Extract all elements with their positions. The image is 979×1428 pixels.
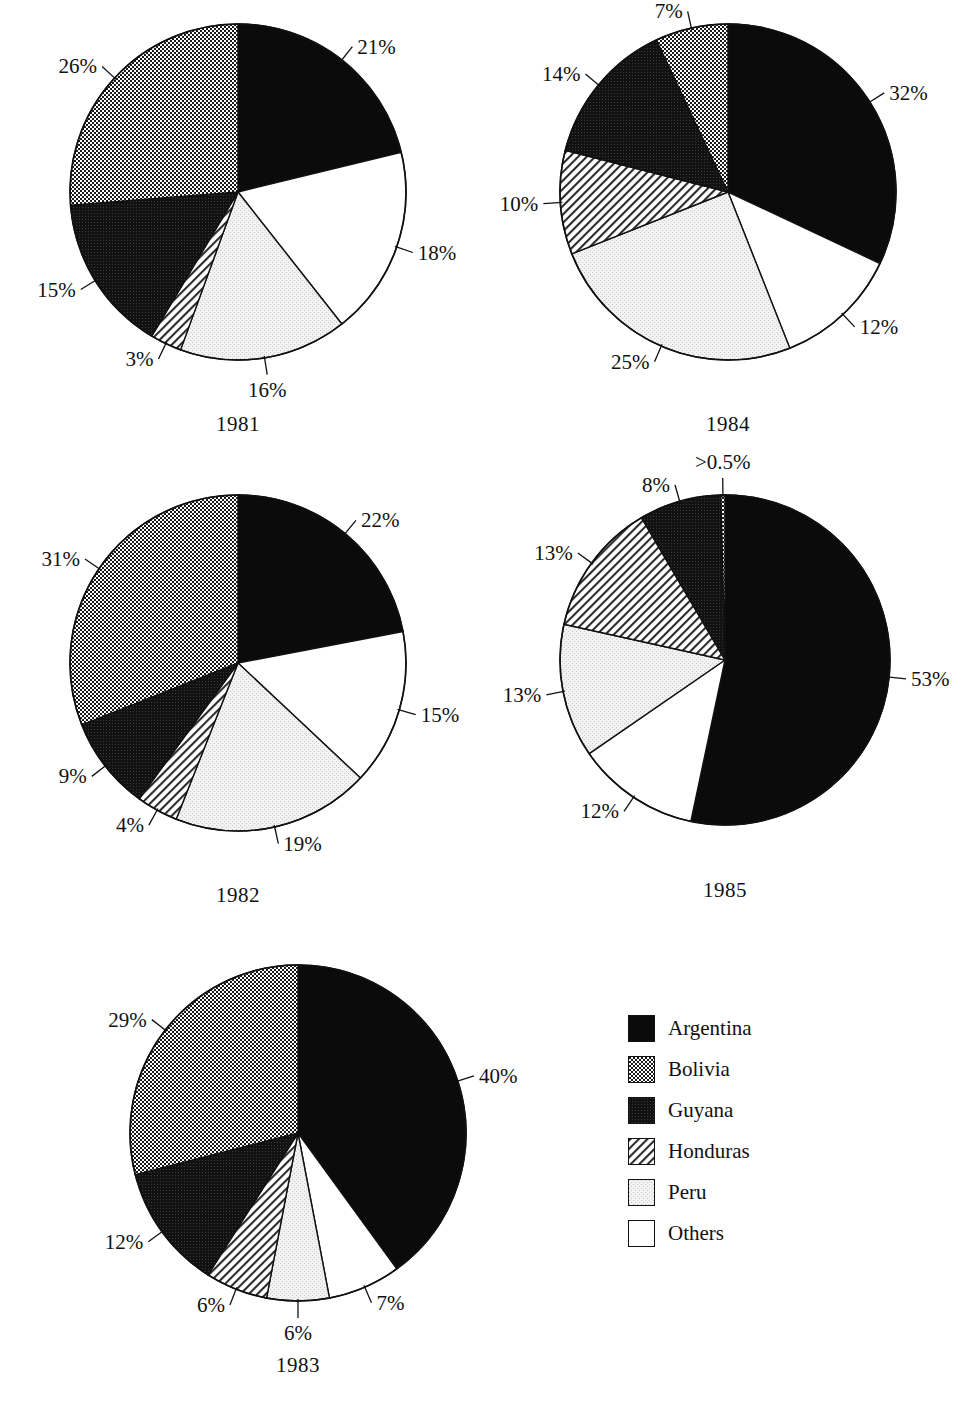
pie-value-label-bolivia: 29% [108,1008,147,1032]
pie-chart-1985: 53%12%13%13%8%>0.5%1985 [482,417,968,903]
legend-label: Peru [668,1182,707,1203]
pie-svg-1982: 22%15%19%4%9%31% [0,417,484,909]
pie-value-label-argentina: 32% [889,81,928,105]
pie-value-label-argentina: 53% [911,667,950,691]
legend-item-peru[interactable]: Peru [628,1172,752,1213]
legend-swatch-argentina [628,1015,655,1042]
leader-line [842,313,855,327]
pie-value-label-peru: 16% [248,378,287,402]
leader-line [344,520,356,535]
pie-chart-1981: 21%18%16%3%15%26%1981 [0,0,484,438]
leader-line [149,808,158,825]
pie-svg-1984: 32%12%25%10%14%7% [482,0,974,438]
legend-swatch-guyana [628,1097,655,1124]
pie-value-label-peru: 13% [503,683,542,707]
leader-line [92,765,107,777]
pie-value-label-guyana: 9% [59,764,87,788]
pie-chart-1982: 22%15%19%4%9%31%1982 [0,417,484,909]
pie-value-label-others: 12% [581,799,620,823]
pie-year-label: 1985 [482,878,968,903]
pie-value-label-argentina: 40% [479,1064,517,1088]
legend-item-others[interactable]: Others [628,1213,752,1254]
pie-value-label-honduras: 10% [500,192,539,216]
pie-value-label-honduras: 6% [197,1293,225,1317]
legend-label: Honduras [668,1141,750,1162]
legend-label: Others [668,1223,724,1244]
pie-value-label-guyana: 14% [542,62,581,86]
leader-line [456,1076,474,1082]
leader-line [274,825,278,844]
leader-line [364,1285,372,1302]
pie-value-label-others: 7% [376,1291,404,1315]
leader-line [868,93,884,103]
legend-label: Argentina [668,1018,752,1039]
legend-item-guyana[interactable]: Guyana [628,1090,752,1131]
legend-item-honduras[interactable]: Honduras [628,1131,752,1172]
leader-line [158,342,166,359]
pie-svg-1983: 40%7%6%6%12%29% [52,887,544,1379]
leader-line [102,66,116,79]
leader-line [624,796,635,812]
pie-value-label-honduras: 13% [534,541,573,565]
leader-line [887,677,906,679]
legend-label: Guyana [668,1100,733,1121]
pie-value-label-peru: 25% [611,350,650,374]
legend-swatch-honduras [628,1138,655,1165]
pie-value-label-bolivia: 31% [41,547,80,571]
pie-value-label-honduras: 4% [116,813,144,837]
pie-year-label: 1983 [52,1353,544,1378]
leader-line [397,709,415,714]
pie-value-label-guyana: 8% [642,473,670,497]
leader-line [148,1231,163,1242]
leader-line [395,246,413,252]
pie-value-label-others: 12% [860,315,899,339]
leader-line [230,1287,237,1305]
leader-line [655,344,663,361]
pie-chart-1984: 32%12%25%10%14%7%1984 [482,0,974,438]
pie-value-label-argentina: 22% [361,508,400,532]
pie-value-label-peru: 19% [283,832,322,856]
pie-value-label-others: 18% [418,241,457,265]
legend-item-bolivia[interactable]: Bolivia [628,1049,752,1090]
pie-value-label-others: 15% [421,703,460,727]
pie-value-label-honduras: 3% [125,347,153,371]
pie-value-label-peru: 6% [284,1321,312,1345]
pie-value-label-guyana: 12% [105,1230,144,1254]
leader-line [675,485,680,503]
legend-item-argentina[interactable]: Argentina [628,1008,752,1049]
leader-line [85,559,101,570]
pie-chart-1983: 40%7%6%6%12%29%1983 [52,887,544,1379]
pie-value-label-argentina: 21% [357,35,396,59]
chart-legend: ArgentinaBoliviaGuyanaHondurasPeruOthers [628,1008,752,1254]
pie-value-label-bolivia: >0.5% [695,450,751,474]
pie-svg-1981: 21%18%16%3%15%26% [0,0,484,438]
leader-line [341,47,353,62]
leader-line [585,74,600,86]
leader-line [546,691,565,695]
legend-swatch-peru [628,1179,655,1206]
pie-slice-bolivia[interactable] [70,24,238,205]
leader-line [152,1020,167,1032]
pie-value-label-bolivia: 26% [59,54,98,78]
legend-swatch-bolivia [628,1056,655,1083]
leader-line [81,280,97,290]
legend-swatch-others [628,1220,655,1247]
pie-value-label-bolivia: 7% [655,0,683,23]
leader-line [264,356,267,375]
legend-label: Bolivia [668,1059,730,1080]
leader-line [688,11,692,30]
pie-svg-1985: 53%12%13%13%8%>0.5% [482,417,968,903]
pie-value-label-guyana: 15% [37,278,76,302]
leader-line [578,553,593,564]
